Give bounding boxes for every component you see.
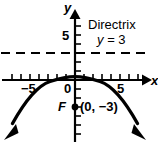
parabola-figure: y x 5 0 −5 5 Directrix y = 3 F (0, −3) [0, 0, 158, 144]
directrix-title-label: Directrix [88, 18, 136, 31]
focus-label: F [58, 100, 66, 113]
focus-point-marker [72, 104, 79, 111]
focus-coordinates-label: (0, −3) [80, 100, 118, 113]
x-tick-label-minus-5: −5 [21, 82, 36, 95]
directrix-equation-rhs: = 3 [107, 32, 125, 47]
origin-label: 0 [64, 82, 71, 95]
parabola-arrowhead-right [132, 124, 147, 140]
y-tick-label-5: 5 [62, 29, 69, 42]
directrix-equation-label: y = 3 [97, 33, 126, 46]
x-axis-label: x [151, 74, 158, 87]
parabola-arrowhead-left [4, 124, 19, 140]
y-axis-label: y [64, 1, 71, 14]
x-tick-label-5: 5 [117, 82, 124, 95]
